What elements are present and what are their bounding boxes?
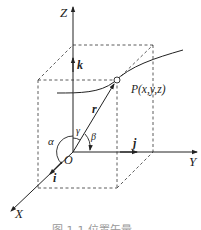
- i-label: i: [53, 171, 57, 185]
- point-p-label: P(x,y,z): [130, 83, 166, 96]
- z-axis-label: Z: [60, 5, 68, 20]
- alpha-label: α: [48, 135, 54, 147]
- j-label: j: [131, 136, 137, 150]
- gamma-label: γ: [76, 125, 81, 136]
- origin-label: O: [64, 153, 73, 167]
- k-label: k: [77, 58, 83, 72]
- r-label: r: [92, 102, 97, 116]
- beta-arc: [85, 134, 90, 150]
- beta-label: β: [90, 131, 96, 142]
- x-axis-label: X: [14, 206, 24, 221]
- gamma-arc: [73, 138, 80, 140]
- coordinate-diagram: Z Y X O k j i r P(x,y,z) α γ β 图 1-1 位置矢…: [0, 0, 201, 230]
- y-axis-label: Y: [189, 154, 198, 169]
- point-p: [114, 77, 120, 83]
- figure-caption: 图 1-1 位置矢量: [52, 223, 132, 230]
